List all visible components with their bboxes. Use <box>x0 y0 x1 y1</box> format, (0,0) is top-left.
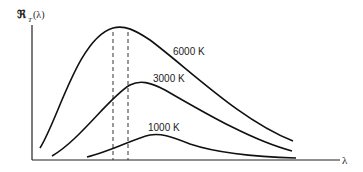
label-1000k: 1000 K <box>148 122 180 133</box>
y-axis-label-arg: (λ) <box>33 9 45 21</box>
label-6000k: 6000 K <box>173 46 205 57</box>
y-axis-label-main: ℜ <box>17 8 27 20</box>
label-3000k: 3000 K <box>153 73 185 84</box>
curve-3000k <box>52 82 292 156</box>
y-axis-label: ℜ <box>17 8 27 20</box>
curve-1000k <box>87 134 296 158</box>
x-axis-label: λ <box>342 154 348 166</box>
blackbody-chart: 6000 K 3000 K 1000 K λ ℜ T (λ) <box>0 0 363 172</box>
